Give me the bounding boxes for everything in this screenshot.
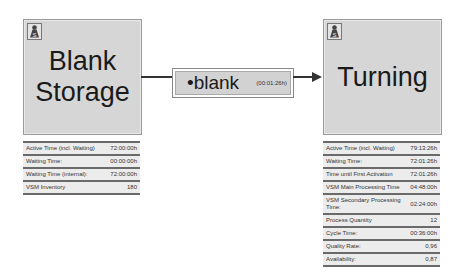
stat-value: 00:36:00h	[407, 227, 440, 240]
transport-box[interactable]: •blank (00:01:26h)	[172, 68, 294, 98]
table-row: VSM Inventory180	[23, 181, 140, 194]
svg-text:S: S	[332, 32, 336, 38]
table-row: Quality Rate:0,96	[323, 240, 440, 253]
title-line-2: Storage	[35, 77, 130, 108]
storage-icon: S	[27, 23, 42, 40]
stat-label: Waiting Time:	[323, 155, 407, 168]
transport-duration: (00:01:26h)	[256, 80, 287, 86]
stat-value: 72:01:26h	[407, 155, 440, 168]
stat-label: Waiting Time (internal):	[23, 168, 104, 181]
stat-label: Availability:	[323, 253, 407, 266]
table-row: Active Time (incl. Waiting)79:13:26h	[323, 142, 440, 155]
stat-label: Waiting Time:	[23, 155, 104, 168]
connector-line-left	[141, 76, 173, 78]
table-row: VSM Secondary Processing Time:02:24:00h	[323, 194, 440, 214]
turning-stats: Active Time (incl. Waiting)79:13:26h Wai…	[323, 141, 440, 267]
table-row: Waiting Time:72:01:26h	[323, 155, 440, 168]
arrow-right-icon	[312, 72, 322, 82]
storage-icon: S	[327, 23, 342, 40]
table-row: Waiting Time:00:00:00h	[23, 155, 140, 168]
stat-label: Time until First Activation	[323, 168, 407, 181]
stat-label: VSM Secondary Processing Time:	[323, 194, 407, 214]
stat-label: Cycle Time:	[323, 227, 407, 240]
stat-value: 79:13:26h	[407, 142, 440, 155]
table-row: Process Quantity12	[323, 214, 440, 227]
stat-value: 12	[407, 214, 440, 227]
turning-node[interactable]: S Turning	[323, 19, 442, 135]
stat-value: 0,96	[407, 240, 440, 253]
stat-label: VSM Inventory	[23, 181, 104, 194]
stat-value: 72:00:00h	[104, 142, 140, 155]
stat-value: 04:48:00h	[407, 181, 440, 194]
table-row: Availability:0,87	[323, 253, 440, 266]
table-row: Active Time (incl. Waiting)72:00:00h	[23, 142, 140, 155]
table-row: Time until First Activation72:01:26h	[323, 168, 440, 181]
title-line-1: Blank	[35, 46, 130, 77]
node-title: Blank Storage	[35, 46, 130, 108]
stat-value: 00:00:00h	[104, 155, 140, 168]
stat-value: 02:24:00h	[407, 194, 440, 214]
connector-line-right	[293, 76, 313, 78]
table-row: Waiting Time (internal):72:00:00h	[23, 168, 140, 181]
stat-label: Active Time (incl. Waiting)	[23, 142, 104, 155]
transport-label: •blank	[187, 72, 239, 94]
stat-label: Process Quantity	[323, 214, 407, 227]
node-title: Turning	[337, 62, 428, 93]
stat-value: 72:00:00h	[104, 168, 140, 181]
table-row: Cycle Time:00:36:00h	[323, 227, 440, 240]
blank-storage-stats: Active Time (incl. Waiting)72:00:00h Wai…	[23, 141, 140, 195]
stat-value: 72:01:26h	[407, 168, 440, 181]
stat-label: Quality Rate:	[323, 240, 407, 253]
stat-value: 0,87	[407, 253, 440, 266]
stat-value: 180	[104, 181, 140, 194]
stat-label: VSM Main Processing Time	[323, 181, 407, 194]
stat-label: Active Time (incl. Waiting)	[323, 142, 407, 155]
table-row: VSM Main Processing Time04:48:00h	[323, 181, 440, 194]
blank-storage-node[interactable]: S Blank Storage	[23, 19, 142, 135]
svg-text:S: S	[32, 32, 36, 38]
